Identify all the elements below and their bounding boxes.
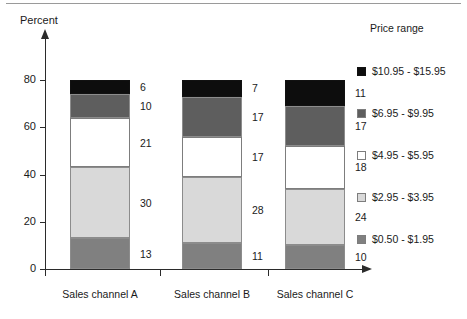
bar-segment-value-label: 11 [355,88,366,99]
y-axis-tick-label: 20 [10,216,36,227]
y-axis-title: Percent [20,14,58,26]
legend-entry-label: $2.95 - $3.95 [372,192,434,203]
y-axis-tick-label: 60 [10,121,36,132]
bar-segment[interactable] [182,177,242,243]
x-axis-line [45,269,365,270]
bar-segment[interactable] [70,118,130,168]
bar-segment[interactable] [70,94,130,118]
bar-segment-value-label: 17 [355,121,367,132]
legend-entry-label: $6.95 - $9.95 [372,108,434,119]
x-axis-arrow-icon [362,265,372,273]
bar-segment-value-label: 30 [140,198,152,209]
legend-color-swatch [357,151,366,160]
bar-segment[interactable] [285,80,345,106]
x-axis-tick [268,270,269,276]
bar-segment[interactable] [182,80,242,97]
bar-segment[interactable] [285,189,345,246]
stacked-bar-chart: Percent 020406080 Sales channel ASales c… [0,0,467,319]
y-axis-line [45,38,46,270]
y-axis-tick [40,80,45,81]
bar-segment[interactable] [70,238,130,269]
bar-segment-value-label: 11 [252,251,263,262]
stacked-bar[interactable] [182,80,242,269]
stacked-bar[interactable] [70,80,130,269]
legend-entry-label: $0.50 - $1.95 [372,234,434,245]
bar-segment[interactable] [70,167,130,238]
bar-segment-value-label: 24 [355,212,367,223]
x-axis-category-label: Sales channel B [167,288,257,300]
bar-segment-value-label: 10 [140,101,152,112]
bar-segment[interactable] [182,243,242,269]
bar-segment-value-label: 7 [252,83,258,94]
bar-segment[interactable] [182,97,242,137]
bar-segment[interactable] [285,245,345,269]
bar-segment[interactable] [285,106,345,146]
legend-color-swatch [357,109,366,118]
legend-color-swatch [357,67,366,76]
x-axis-category-label: Sales channel C [270,288,360,300]
bar-segment-value-label: 17 [252,152,264,163]
bar-segment-value-label: 17 [252,112,264,123]
y-axis-tick [40,175,45,176]
x-axis-category-label: Sales channel A [55,288,145,300]
bar-segment-value-label: 18 [355,162,367,173]
x-axis-tick [160,270,161,276]
legend-color-swatch [357,235,366,244]
bar-segment-value-label: 6 [140,82,146,93]
legend-title: Price range [370,22,424,34]
bar-segment[interactable] [70,80,130,94]
bar-segment[interactable] [182,137,242,177]
bar-segment-value-label: 10 [355,252,367,263]
y-axis-tick-label: 40 [10,169,36,180]
y-axis-tick [40,127,45,128]
y-axis-tick-label: 80 [10,74,36,85]
y-axis-tick-label: 0 [10,263,36,274]
legend-color-swatch [357,193,366,202]
legend-entry-label: $4.95 - $5.95 [372,150,434,161]
bar-segment-value-label: 21 [140,138,152,149]
stacked-bar[interactable] [285,80,345,269]
y-axis-tick [40,222,45,223]
bar-segment-value-label: 13 [140,249,152,260]
legend-entry-label: $10.95 - $15.95 [372,66,446,77]
bar-segment-value-label: 28 [252,205,264,216]
x-axis-tick [45,270,46,276]
y-axis-arrow-icon [41,29,49,39]
bar-segment[interactable] [285,146,345,189]
